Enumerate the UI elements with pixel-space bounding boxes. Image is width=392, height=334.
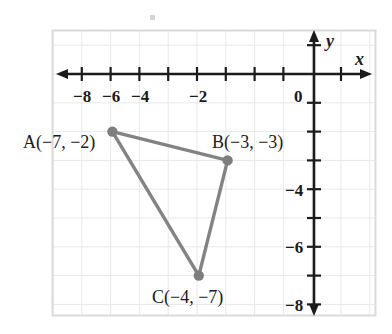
y-tick-label-neg8: −8 <box>285 297 303 314</box>
x-tick-label-neg8: −8 <box>73 88 91 105</box>
x-tick-label-neg4: −4 <box>131 88 149 105</box>
x-axis-name: x <box>355 50 364 68</box>
point-b-marker <box>222 155 232 165</box>
x-tick-label-neg2: −2 <box>189 88 207 105</box>
y-axis-name: y <box>326 32 334 50</box>
point-a-marker <box>107 126 117 136</box>
point-c-marker <box>194 270 204 280</box>
point-a-label: A(−7, −2) <box>23 133 95 151</box>
y-tick-label-neg4: −4 <box>285 182 303 199</box>
y-tick-label-neg6: −6 <box>285 239 303 256</box>
origin-label: 0 <box>294 88 303 105</box>
x-tick-label-neg6: −6 <box>102 88 120 105</box>
scan-artifact-dot <box>150 15 155 20</box>
point-b-label: B(−3, −3) <box>212 133 283 151</box>
point-c-label: C(−4, −7) <box>152 288 223 306</box>
